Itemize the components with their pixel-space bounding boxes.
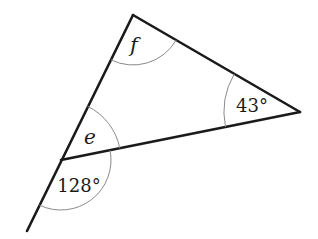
label-e: e <box>84 125 96 149</box>
arc-angle-43 <box>224 74 234 127</box>
label-angle-128: 128° <box>57 175 100 196</box>
side-top-left-extended <box>27 15 133 231</box>
side-right-left <box>61 112 300 160</box>
label-angle-43: 43° <box>236 95 268 116</box>
triangle-diagram: f e 43° 128° <box>0 0 318 239</box>
arc-angle-f <box>111 40 176 65</box>
label-f: f <box>128 33 141 57</box>
side-top-right <box>133 15 300 112</box>
